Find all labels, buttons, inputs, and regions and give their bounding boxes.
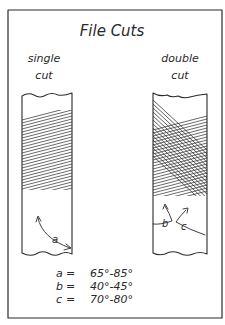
legend-b-sep: = — [66, 280, 75, 293]
angle-legend: a = 65°-85° b = 40°-45° c = 70°-80° — [56, 267, 133, 306]
angle-b-label: b — [162, 218, 168, 229]
legend-c-sep: = — [66, 293, 75, 306]
file-cuts-diagram: File Cuts single cut double cut — [0, 0, 225, 325]
single-cut-label-line2: cut — [35, 69, 53, 82]
legend-a-range: 65°-85° — [90, 267, 133, 280]
double-cut-label-line2: cut — [171, 69, 189, 82]
single-cut-teeth — [22, 107, 72, 201]
legend-a-sep: = — [66, 267, 75, 280]
single-cut-file: a — [22, 93, 72, 255]
angle-c-label: c — [181, 221, 187, 232]
single-cut-label-line1: single — [28, 52, 61, 65]
double-cut-overcut-teeth — [153, 100, 207, 206]
legend-a-symbol: a — [56, 267, 63, 280]
double-cut-label-line1: double — [161, 52, 199, 65]
legend-b-range: 40°-45° — [90, 280, 133, 293]
legend-b-symbol: b — [56, 280, 63, 293]
double-cut-file: b c — [153, 93, 207, 255]
legend-c-range: 70°-80° — [90, 293, 133, 306]
title: File Cuts — [80, 22, 145, 40]
angle-a-label: a — [52, 234, 58, 245]
legend-c-symbol: c — [56, 293, 62, 306]
